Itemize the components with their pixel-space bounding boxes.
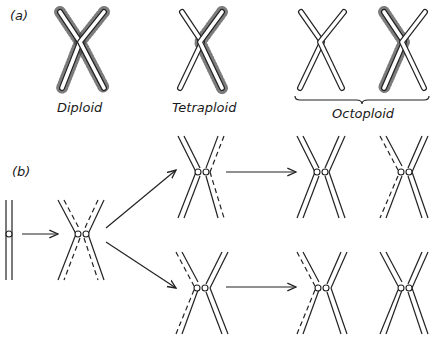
diploid-chromosome bbox=[60, 12, 104, 88]
arrow-up bbox=[106, 170, 176, 228]
octoploid-bracket bbox=[295, 96, 429, 104]
stage-4-bottom-right-chromosome bbox=[380, 252, 428, 334]
octoploid-chromosome-1 bbox=[300, 12, 344, 88]
tetraploid-chromosome bbox=[180, 12, 222, 88]
stage-3-bottom-chromosome bbox=[176, 252, 228, 334]
chromosome-replication-diagram bbox=[0, 0, 431, 340]
stage-4-top-right-chromosome bbox=[380, 136, 428, 218]
stage-4-top-left-chromosome bbox=[297, 136, 345, 218]
stage-4-bottom-left-chromosome bbox=[297, 252, 347, 334]
stage-3-top-chromosome bbox=[178, 136, 224, 218]
stage-2-chromosome bbox=[58, 200, 104, 280]
arrow-down bbox=[106, 242, 176, 288]
stage-1-chromosome bbox=[6, 200, 12, 280]
octoploid-chromosome-2 bbox=[384, 12, 425, 88]
